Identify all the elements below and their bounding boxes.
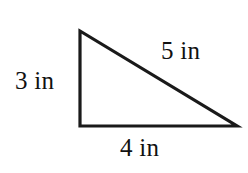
side-label-vertical-leg: 3 in [15,68,54,93]
side-label-hypotenuse: 5 in [161,38,200,63]
right-triangle-figure: 3 in 5 in 4 in [0,0,248,173]
triangle-outline [80,31,237,126]
side-label-horizontal-leg: 4 in [120,135,159,160]
